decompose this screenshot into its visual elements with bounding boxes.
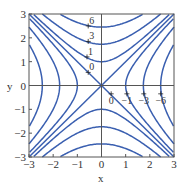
y-tick-label: −2	[14, 127, 26, 139]
x-tick-label: 2	[147, 158, 153, 170]
y-tick-label: 3	[21, 8, 27, 20]
level-label: −6	[155, 95, 166, 106]
level-label: 6	[89, 15, 94, 26]
level-label: 3	[89, 30, 94, 41]
x-axis-label: x	[98, 172, 104, 184]
y-axis-label: y	[7, 80, 13, 92]
level-label: 1	[88, 46, 93, 57]
x-tick-label: −2	[47, 158, 59, 170]
contour-plot: −3−2−10123−3−2−10123 63100−1−3−6 x y	[0, 0, 188, 189]
level-label: 0	[89, 61, 94, 72]
level-label: 0	[109, 95, 114, 106]
y-tick-label: 2	[21, 32, 27, 44]
y-tick-label: −1	[14, 103, 26, 115]
x-tick-label: 1	[123, 158, 129, 170]
y-tick-label: 1	[21, 56, 27, 68]
tick-labels: −3−2−10123−3−2−10123	[14, 8, 177, 170]
y-tick-label: −3	[14, 151, 26, 163]
x-tick-label: −1	[71, 158, 83, 170]
x-tick-label: 0	[99, 158, 105, 170]
level-label: −3	[138, 95, 149, 106]
x-tick-label: 3	[171, 158, 177, 170]
y-tick-label: 0	[21, 80, 27, 92]
level-label: −1	[122, 95, 133, 106]
